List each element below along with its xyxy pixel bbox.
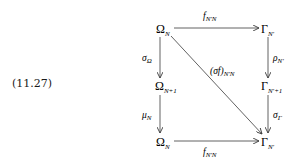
label-left-lower-arrow: μN <box>141 110 152 122</box>
arrow-diagonal <box>171 36 262 134</box>
node-top-left: ΩN <box>156 22 170 38</box>
node-mid-right: ΓN′+1 <box>261 79 282 95</box>
label-bottom-arrow: fN′N <box>203 147 217 159</box>
node-bottom-right: ΓN′ <box>261 135 275 151</box>
label-right-upper-arrow: ρN′ <box>272 53 284 65</box>
label-right-lower-arrow: σΓ <box>273 110 283 122</box>
label-top-arrow: fN′N <box>203 11 217 23</box>
node-bottom-left: ΩN <box>156 135 170 151</box>
label-left-upper-arrow: σΩ <box>142 53 152 65</box>
label-diagonal-arrow: (σf)N′N <box>210 66 235 78</box>
node-top-right: ΓN′ <box>261 22 275 38</box>
node-mid-left: ΩN+1 <box>155 79 177 95</box>
commutative-diagram: ΩN ΓN′ ΩN+1 ΓN′+1 ΩN ΓN′ fN′N fN′N (σf)N… <box>0 0 304 167</box>
